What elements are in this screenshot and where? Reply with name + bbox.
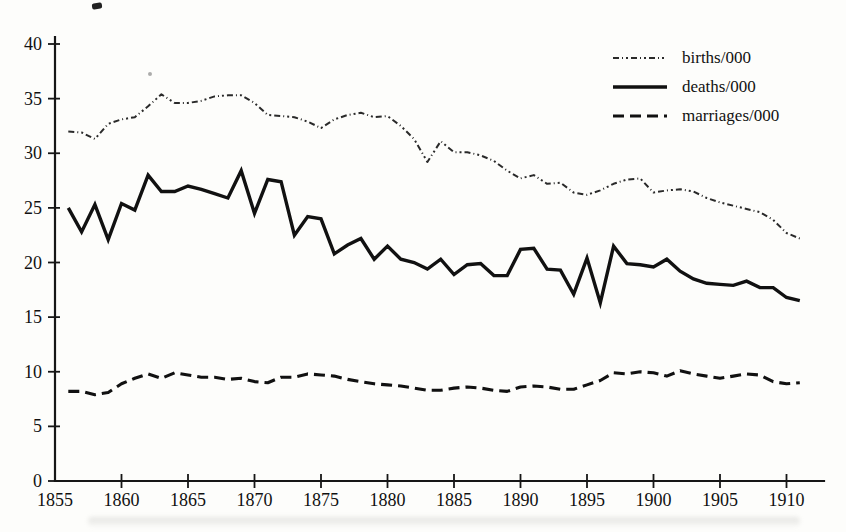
legend-label-marriages: marriages/000 <box>682 106 779 126</box>
x-tick-label: 1865 <box>170 490 206 510</box>
y-tick-label: 40 <box>24 34 42 54</box>
x-tick-label: 1900 <box>636 490 672 510</box>
y-tick-label: 25 <box>24 198 42 218</box>
vital-rates-chart: 0510152025303540185518601865187018751880… <box>0 0 846 532</box>
y-tick-label: 35 <box>24 89 42 109</box>
x-tick-label: 1910 <box>769 490 805 510</box>
x-tick-label: 1875 <box>303 490 339 510</box>
legend-entry-births: births/000 <box>612 48 779 68</box>
legend-entry-deaths: deaths/000 <box>612 77 779 97</box>
x-tick-label: 1855 <box>37 490 73 510</box>
marriages-line <box>68 371 800 395</box>
y-tick-label: 15 <box>24 307 42 327</box>
deaths-line-swatch-icon <box>612 82 668 92</box>
x-tick-label: 1890 <box>503 490 539 510</box>
x-tick-label: 1895 <box>569 490 605 510</box>
y-tick-label: 10 <box>24 362 42 382</box>
x-tick-label: 1860 <box>104 490 140 510</box>
x-tick-label: 1870 <box>237 490 273 510</box>
scan-artifact <box>148 72 152 76</box>
legend-label-deaths: deaths/000 <box>682 77 756 97</box>
legend-entry-marriages: marriages/000 <box>612 106 779 126</box>
y-tick-label: 0 <box>33 471 42 491</box>
x-tick-label: 1885 <box>436 490 472 510</box>
marriages-line-swatch-icon <box>612 111 668 121</box>
legend-label-births: births/000 <box>682 48 751 68</box>
y-tick-label: 5 <box>33 416 42 436</box>
y-tick-label: 30 <box>24 143 42 163</box>
legend: births/000 deaths/000 marriages/000 <box>612 48 779 126</box>
births-line-swatch-icon <box>612 53 668 63</box>
x-tick-label: 1905 <box>702 490 738 510</box>
x-tick-label: 1880 <box>370 490 406 510</box>
y-tick-label: 20 <box>24 253 42 273</box>
cropped-caption-remnant <box>88 517 800 526</box>
